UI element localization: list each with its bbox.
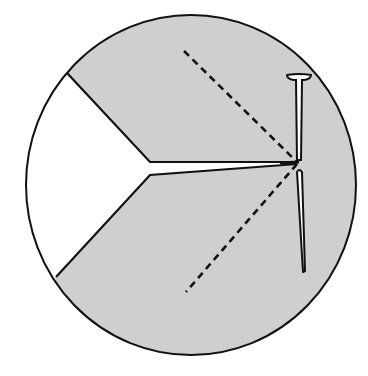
log-split-nail-diagram (0, 0, 368, 376)
